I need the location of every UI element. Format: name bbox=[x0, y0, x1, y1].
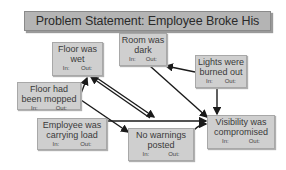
node-label-line: Floor was bbox=[53, 44, 102, 54]
out-label: Out: bbox=[81, 64, 92, 72]
edge-nowarn-to-wet bbox=[91, 77, 150, 118]
node-lights-burned-out[interactable]: Lights were burned out In:Out: bbox=[195, 55, 247, 88]
in-label: In: bbox=[142, 150, 149, 158]
node-label-line: dark bbox=[120, 45, 166, 55]
out-label: Out: bbox=[225, 77, 236, 85]
node-label-line: Room was bbox=[120, 35, 166, 45]
edge-wet-to-nowarn bbox=[94, 76, 154, 117]
edge-nowarn-to-visibility bbox=[194, 124, 206, 130]
node-no-warnings[interactable]: No warnings posted In:Out: bbox=[128, 128, 194, 161]
node-room-dark[interactable]: Room was dark In:Out: bbox=[119, 33, 167, 66]
out-label: Out: bbox=[80, 140, 91, 148]
in-label: In: bbox=[63, 64, 70, 72]
in-label: In: bbox=[129, 55, 136, 63]
problem-statement-title: Problem Statement: Employee Broke His Le… bbox=[24, 11, 271, 31]
node-label-line: Employee was bbox=[38, 120, 106, 130]
node-label-line: Lights were bbox=[196, 57, 246, 67]
node-label-line: No warnings bbox=[129, 130, 193, 140]
node-floor-wet[interactable]: Floor was wet In:Out: bbox=[52, 42, 103, 76]
node-label-line: burned out bbox=[196, 67, 246, 77]
node-label-line: compromised bbox=[208, 127, 274, 137]
node-label-line: carrying load bbox=[38, 130, 106, 140]
node-label-line: Visibility was bbox=[208, 117, 274, 127]
in-label: In: bbox=[206, 77, 213, 85]
node-label-line: Floor had bbox=[18, 84, 80, 94]
out-label: Out: bbox=[146, 55, 157, 63]
in-label: In: bbox=[222, 137, 229, 145]
node-floor-mopped[interactable]: Floor had been mopped In:Out: bbox=[17, 82, 81, 110]
in-label: In: bbox=[52, 140, 59, 148]
node-label-line: been mopped bbox=[18, 94, 80, 104]
edge-mopped-to-wet bbox=[80, 78, 87, 96]
out-label: Out: bbox=[168, 150, 179, 158]
node-label-line: posted bbox=[129, 140, 193, 150]
out-label: Out: bbox=[56, 104, 67, 112]
edge-lights-to-dark bbox=[166, 66, 195, 72]
node-carrying-load[interactable]: Employee was carrying load In:Out: bbox=[37, 118, 107, 150]
node-label-line: wet bbox=[53, 54, 102, 64]
out-label: Out: bbox=[249, 137, 260, 145]
node-visibility-compromised[interactable]: Visibility was compromised In:Out: bbox=[207, 115, 275, 149]
in-label: In: bbox=[31, 104, 38, 112]
